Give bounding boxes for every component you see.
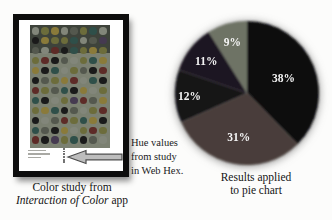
study-dot xyxy=(89,127,97,135)
study-dot xyxy=(41,67,49,75)
study-dot xyxy=(70,117,78,125)
arrow-shape xyxy=(68,151,122,164)
study-dot xyxy=(41,127,49,135)
study-dot xyxy=(89,37,97,45)
study-dot xyxy=(80,37,88,45)
study-dot xyxy=(51,77,59,85)
study-dot xyxy=(32,77,40,85)
study-dot xyxy=(51,117,59,125)
study-dot xyxy=(41,47,49,55)
pointer-arrow-icon xyxy=(66,149,124,165)
study-dot xyxy=(89,57,97,65)
study-dot xyxy=(70,127,78,135)
study-dot xyxy=(32,27,40,35)
pie-label-9%: 9% xyxy=(224,36,241,48)
study-dot xyxy=(41,77,49,85)
study-dot xyxy=(99,27,107,35)
study-dot xyxy=(61,47,69,55)
study-dot xyxy=(61,97,69,105)
study-dot xyxy=(80,67,88,75)
study-dot xyxy=(80,77,88,85)
study-dot xyxy=(80,127,88,135)
study-dot xyxy=(32,37,40,45)
study-dot xyxy=(70,107,78,115)
study-dot xyxy=(41,57,49,65)
study-dot xyxy=(61,136,69,144)
study-dot xyxy=(61,57,69,65)
study-dot xyxy=(41,97,49,105)
study-dot xyxy=(32,47,40,55)
study-dot xyxy=(32,136,40,144)
study-dot xyxy=(41,107,49,115)
study-dot xyxy=(32,87,40,95)
hex-strip-dot xyxy=(63,148,65,150)
mat-microtext xyxy=(28,150,52,160)
study-dot xyxy=(80,87,88,95)
study-dot xyxy=(99,47,107,55)
study-dot xyxy=(51,87,59,95)
study-dot xyxy=(99,117,107,125)
microtext-line xyxy=(28,150,46,151)
study-dot xyxy=(99,97,107,105)
study-dot xyxy=(70,47,78,55)
left-caption-line1: Color study from xyxy=(8,181,136,194)
study-dot xyxy=(99,127,107,135)
study-dot xyxy=(51,67,59,75)
study-dot xyxy=(80,107,88,115)
study-dot xyxy=(32,57,40,65)
hex-strip-dot xyxy=(63,156,65,158)
study-dot xyxy=(70,77,78,85)
study-dot xyxy=(89,27,97,35)
study-dot xyxy=(41,117,49,125)
hex-strip-dot xyxy=(63,159,65,161)
study-dot xyxy=(51,107,59,115)
study-dot xyxy=(51,97,59,105)
study-dot xyxy=(89,67,97,75)
study-dot xyxy=(41,37,49,45)
study-dot xyxy=(89,117,97,125)
study-dot xyxy=(32,127,40,135)
study-dot xyxy=(80,97,88,105)
study-dot xyxy=(70,27,78,35)
pie-label-12%: 12% xyxy=(178,90,201,102)
study-dot xyxy=(41,87,49,95)
left-caption-italic: Interaction of Color xyxy=(16,194,109,206)
left-caption-regular: app xyxy=(109,194,128,206)
study-dot xyxy=(99,136,107,144)
left-caption: Color study from Interaction of Color ap… xyxy=(8,181,136,207)
study-dot xyxy=(89,136,97,144)
color-study-artwork xyxy=(30,25,110,148)
pie-chart: 38%31%12%11%9% xyxy=(167,13,327,173)
study-dot xyxy=(32,67,40,75)
study-dot xyxy=(80,136,88,144)
study-dot xyxy=(61,77,69,85)
study-dot xyxy=(89,77,97,85)
study-dot xyxy=(51,136,59,144)
hex-strip-dot xyxy=(63,151,65,153)
study-dot xyxy=(99,37,107,45)
study-dot xyxy=(61,37,69,45)
right-caption: Results applied to pie chart xyxy=(197,171,315,197)
left-caption-line2: Interaction of Color app xyxy=(8,194,136,207)
study-dot xyxy=(70,136,78,144)
figure-canvas: Hue values from study in Web Hex. 38%31%… xyxy=(0,0,332,220)
study-dot xyxy=(99,77,107,85)
study-dot xyxy=(51,127,59,135)
study-dot xyxy=(61,127,69,135)
study-dot xyxy=(99,57,107,65)
study-dot xyxy=(89,87,97,95)
study-dot xyxy=(51,27,59,35)
study-dot xyxy=(51,47,59,55)
study-dot xyxy=(99,87,107,95)
hex-strip-dot xyxy=(63,161,65,163)
study-dot xyxy=(61,87,69,95)
study-dot xyxy=(89,47,97,55)
study-dot xyxy=(80,47,88,55)
study-dot xyxy=(80,117,88,125)
study-dot xyxy=(70,67,78,75)
study-dot xyxy=(61,67,69,75)
study-dot xyxy=(70,57,78,65)
right-caption-line2: to pie chart xyxy=(197,184,315,197)
hex-strip-dot xyxy=(63,153,65,155)
pie-label-11%: 11% xyxy=(195,55,217,67)
